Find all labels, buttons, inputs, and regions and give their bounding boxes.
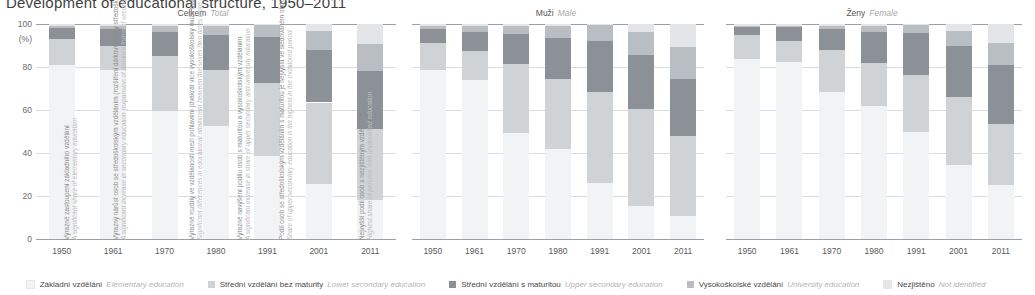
bar-segment [861,32,887,63]
bar-segment [670,24,696,47]
bar-segment [420,43,446,70]
y-axis-tick-20: 20 [23,191,32,201]
legend-label-en: Elementary education [106,280,183,289]
panel-title-female-cz: Ženy [846,8,865,18]
bar-ženy-2011[interactable] [988,24,1014,239]
x-axis-label-2011: 2011 [992,246,1010,256]
bar-ženy-1950[interactable] [734,24,760,239]
bar-segment [420,70,446,239]
bar-muži-1950[interactable] [420,24,446,239]
bar-segment [734,27,760,35]
bar-segment [861,26,887,31]
bar-segment [903,132,929,240]
bar-celkem-2001[interactable] [306,24,332,239]
bar-celkem-1991[interactable] [254,24,280,239]
bar-segment [503,133,529,239]
bar-segment [587,25,613,41]
bar-segment [946,97,972,165]
bar-ženy-1961[interactable] [776,24,802,239]
bar-segment [776,41,802,61]
bar-muži-2011[interactable] [670,24,696,239]
plot-area-male [412,24,704,239]
bar-ženy-1980[interactable] [861,24,887,239]
bar-segment [734,35,760,60]
bar-segment [587,183,613,239]
bar-segment [587,24,613,25]
bar-segment [903,33,929,75]
plot-area-total: 100806040200(%) [36,24,396,239]
bar-segment [100,29,126,45]
x-axis-label-2011: 2011 [361,246,379,256]
panel-title-female-en: Female [869,8,897,18]
bar-celkem-1950[interactable] [49,24,75,239]
x-axis-label-1980: 1980 [865,246,884,256]
bar-segment [100,26,126,30]
bar-ženy-1991[interactable] [903,24,929,239]
legend-item-1[interactable]: Střední vzdělání bez maturityLower secon… [208,280,425,289]
bar-muži-1980[interactable] [545,24,571,239]
bar-segment [100,70,126,239]
bar-segment [819,24,845,26]
bar-segment [462,51,488,80]
bar-segment [670,47,696,79]
bar-segment [203,26,229,35]
y-axis-tick-80: 80 [23,62,32,72]
bar-segment [587,41,613,92]
bar-celkem-1970[interactable] [152,24,178,239]
legend-label-en: Upper secondary education [565,280,663,289]
bar-segment [776,62,802,239]
x-axis-label-1991: 1991 [590,246,609,256]
bar-celkem-2011[interactable] [357,24,383,239]
bar-muži-2001[interactable] [628,24,654,239]
bar-celkem-1961[interactable] [100,24,126,239]
bar-segment [734,59,760,239]
x-axis-label-2001: 2001 [309,246,328,256]
bar-segment [988,185,1014,239]
legend-swatch-icon [26,280,35,289]
bar-segment [357,71,383,129]
x-axis-label-1950: 1950 [423,246,442,256]
bar-celkem-1980[interactable] [203,24,229,239]
bar-muži-1970[interactable] [503,24,529,239]
bar-ženy-1970[interactable] [819,24,845,239]
bar-segment [203,35,229,70]
x-axis-label-1961: 1961 [780,246,799,256]
bar-segment [152,111,178,239]
legend-item-3[interactable]: Vysokoškolské vzděláníUniversity educati… [687,280,860,289]
bar-segment [254,25,280,37]
bar-segment [819,92,845,239]
bar-segment [306,31,332,50]
chart-panel-male: MužiMale 1950196119701980199120012011 [400,8,712,270]
bar-segment [503,64,529,133]
legend-item-4[interactable]: NezjištěnoNot identified [883,280,985,289]
bar-segment [254,24,280,25]
bar-segment [152,26,178,32]
bar-segment [100,46,126,71]
bar-segment [462,80,488,239]
bar-segment [988,24,1014,43]
bar-segment [49,39,75,65]
x-axis-label-1950: 1950 [738,246,757,256]
charts-container: CelkemTotal 100806040200(%) 195019611970… [0,8,1035,270]
y-axis-tick-60: 60 [23,105,32,115]
bar-segment [545,79,571,149]
legend-item-0[interactable]: Základní vzděláníElementary education [26,280,184,289]
bar-segment [545,24,571,26]
legend-label-cz: Střední vzdělání s maturitou [461,280,561,289]
bar-segment [357,200,383,239]
bar-segment [670,79,696,136]
x-axis-labels-male: 1950196119701980199120012011 [412,246,704,260]
bar-muži-1961[interactable] [462,24,488,239]
legend-label-en: Not identified [939,280,986,289]
bar-muži-1991[interactable] [587,24,613,239]
bar-segment [861,24,887,26]
legend-item-2[interactable]: Střední vzdělání s maturitouUpper second… [449,280,662,289]
legend-label-cz: Vysokoškolské vzdělání [699,280,784,289]
x-axis-labels-female: 1950196119701980199120012011 [726,246,1022,260]
bar-segment [903,24,929,25]
y-axis-unit: (%) [19,34,32,44]
chart-legend: Základní vzděláníElementary educationStř… [0,277,1035,291]
bar-segment [152,56,178,111]
bar-ženy-2001[interactable] [946,24,972,239]
bar-segment [49,28,75,39]
